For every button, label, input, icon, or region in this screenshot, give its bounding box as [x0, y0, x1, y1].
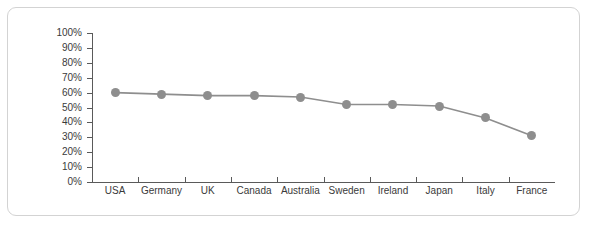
x-tick-label: UK: [185, 186, 231, 196]
x-tick-label: France: [509, 186, 555, 196]
x-tick-label: USA: [92, 186, 138, 196]
data-point: [250, 91, 259, 100]
x-tick-label: Australia: [277, 186, 323, 196]
x-tick-label: Germany: [138, 186, 184, 196]
data-point: [435, 102, 444, 111]
x-tick-label: Japan: [416, 186, 462, 196]
series-path: [115, 93, 532, 136]
x-tick-label: Italy: [462, 186, 508, 196]
data-point: [157, 90, 166, 99]
line-chart: 0%10%20%30%40%50%60%70%80%90%100% USAGer…: [0, 0, 589, 225]
x-tick-label: Canada: [231, 186, 277, 196]
x-tick-label: Ireland: [370, 186, 416, 196]
data-point: [296, 93, 305, 102]
x-tick-label: Sweden: [324, 186, 370, 196]
data-point: [111, 88, 120, 97]
